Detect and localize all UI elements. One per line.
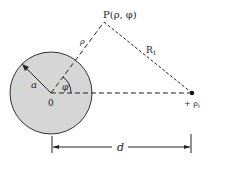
distance-d-label: d: [117, 141, 124, 154]
radius-a-label: a: [31, 79, 37, 90]
rho-label: ρ: [79, 37, 85, 46]
angle-phi-label: φ: [62, 82, 69, 92]
d-arrow-right: [184, 145, 190, 149]
line-charge-dot: [190, 91, 194, 95]
diagram-svg: P(ρ, φ) ρ R1 a φ 0 + ρℓ d: [0, 0, 227, 190]
d-arrow-left: [53, 145, 59, 149]
r1-line: [104, 22, 192, 93]
charge-main: + ρ: [184, 99, 198, 108]
charge-label: + ρℓ: [184, 99, 200, 109]
r1-label: R1: [146, 45, 157, 56]
diagram-canvas: P(ρ, φ) ρ R1 a φ 0 + ρℓ d: [0, 0, 227, 190]
point-p-label: P(ρ, φ): [103, 9, 137, 20]
charge-sub: ℓ: [198, 103, 200, 109]
r1-sub: 1: [153, 49, 157, 56]
origin-label: 0: [48, 98, 54, 108]
